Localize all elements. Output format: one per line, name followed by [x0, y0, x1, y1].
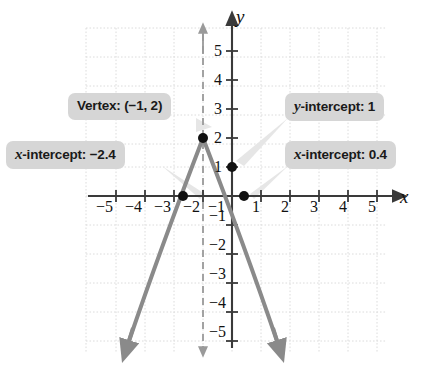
- callout-x-intercept-left: x-intercept: −2.4: [6, 141, 125, 169]
- x-tick-label-6: 2: [281, 199, 289, 215]
- y-tick-label-9: −5: [209, 324, 226, 340]
- x-tick-label-0: −5: [96, 199, 113, 215]
- x-tick-label-5: 1: [252, 199, 260, 215]
- x-tick-label-2: −3: [154, 199, 171, 215]
- point-vertex: [198, 133, 208, 143]
- x-tick-label-9: 5: [368, 199, 376, 215]
- callout-vertex-value: (−1, 2): [124, 98, 162, 113]
- callout-y-intercept: y-intercept: 1: [285, 93, 384, 121]
- x-tick-label-1: −4: [125, 199, 142, 215]
- parabola-graph: [0, 0, 422, 375]
- callout-y-intercept-text: -intercept: 1: [300, 99, 375, 114]
- callout-x-intercept-right: x-intercept: 0.4: [285, 141, 396, 169]
- callout-x-intercept-left-text: -intercept: −2.4: [22, 147, 115, 162]
- x-tick-label-3: −2: [183, 199, 200, 215]
- y-tick-label-6: −2: [209, 237, 226, 253]
- callout-x-intercept-right-text: -intercept: 0.4: [301, 147, 387, 162]
- callout-vertex: Vertex: (−1, 2): [68, 93, 171, 120]
- x-axis-label: x: [400, 186, 408, 208]
- y-tick-label-2: 3: [214, 101, 222, 117]
- y-tick-label-3: 2: [214, 130, 222, 146]
- callout-vertex-prefix: Vertex:: [77, 98, 124, 113]
- x-tick-label-8: 4: [339, 199, 347, 215]
- y-tick-label-8: −4: [209, 295, 226, 311]
- y-tick-label-7: −3: [209, 266, 226, 282]
- y-tick-label-0: 5: [214, 43, 222, 59]
- point-y-intercept: [227, 162, 237, 172]
- point-x-intercept-right: [239, 191, 249, 201]
- y-tick-label-4: 1: [214, 159, 222, 175]
- y-axis-label: y: [236, 6, 244, 28]
- x-tick-label-7: 3: [310, 199, 318, 215]
- y-tick-label-5: −1: [209, 208, 226, 224]
- figure-background: [0, 0, 422, 375]
- y-tick-label-1: 4: [214, 72, 222, 88]
